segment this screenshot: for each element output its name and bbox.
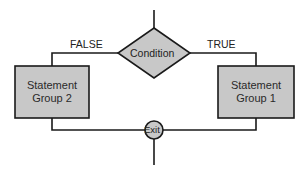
statement-group-2-line2: Group 2 xyxy=(15,92,89,105)
false-connector xyxy=(52,53,118,66)
false-branch-label: FALSE xyxy=(70,39,103,50)
left-merge-connector xyxy=(52,118,145,130)
statement-group-2-line1: Statement xyxy=(15,79,89,92)
statement-group-2-label: Statement Group 2 xyxy=(15,79,89,105)
right-merge-connector xyxy=(163,118,256,130)
statement-group-1-label: Statement Group 1 xyxy=(218,79,294,105)
statement-group-1-line2: Group 1 xyxy=(218,92,294,105)
true-connector xyxy=(190,53,256,66)
condition-label: Condition xyxy=(130,48,174,59)
statement-group-1-line1: Statement xyxy=(218,79,294,92)
true-branch-label: TRUE xyxy=(207,39,236,50)
exit-label: Exit xyxy=(144,125,160,135)
